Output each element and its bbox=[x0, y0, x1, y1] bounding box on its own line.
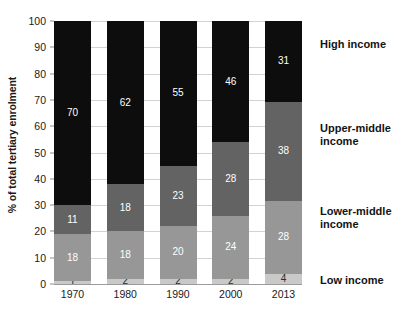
bar-segment[interactable]: 11 bbox=[54, 205, 91, 234]
y-axis-tick-label: 40 bbox=[34, 173, 46, 185]
bar-segment-value-label: 2 bbox=[175, 279, 181, 284]
bar-segment-value-label: 18 bbox=[67, 253, 78, 263]
bar-segment-value-label: 55 bbox=[172, 88, 183, 98]
bar-segment-value-label: 28 bbox=[278, 232, 289, 242]
bar-segment[interactable]: 62 bbox=[107, 21, 144, 184]
axis-baseline bbox=[54, 284, 302, 285]
legend-label: Lower-middle income bbox=[320, 205, 416, 232]
bar-segment[interactable]: 2 bbox=[160, 279, 197, 284]
bar-column[interactable]: 2181862 bbox=[107, 21, 144, 284]
bar-segment-value-label: 18 bbox=[120, 203, 131, 213]
bar-segment-value-label: 4 bbox=[281, 274, 287, 284]
bar-segment[interactable]: 18 bbox=[107, 231, 144, 278]
y-axis-tick-label: 90 bbox=[34, 41, 46, 53]
y-axis-title-text: % of total tertiary enrolment bbox=[6, 77, 18, 214]
bar-segment-value-label: 2 bbox=[122, 279, 128, 284]
bar-segment-value-label: 31 bbox=[278, 56, 289, 66]
bar-segment[interactable]: 55 bbox=[160, 21, 197, 166]
bar-segment[interactable]: 28 bbox=[265, 201, 302, 274]
bar-segment[interactable]: 38 bbox=[265, 102, 302, 201]
bar-segment-value-label: 23 bbox=[172, 191, 183, 201]
y-axis-title: % of total tertiary enrolment bbox=[2, 0, 22, 290]
bar-segment-value-label: 38 bbox=[278, 146, 289, 156]
x-axis-tick-labels: 19701980199020002013 bbox=[54, 288, 302, 308]
bar-segment-value-label: 2 bbox=[228, 279, 234, 284]
bar-segment-value-label: 24 bbox=[225, 242, 236, 252]
bar-segment[interactable]: 46 bbox=[212, 21, 249, 142]
bar-segment-value-label: 46 bbox=[225, 77, 236, 87]
bar-segment[interactable]: 31 bbox=[265, 21, 302, 102]
y-axis-tick-label: 100 bbox=[28, 15, 46, 27]
bar-segment[interactable]: 28 bbox=[212, 142, 249, 216]
x-axis-tick-label: 2000 bbox=[212, 288, 249, 308]
bar-segment[interactable]: 70 bbox=[54, 21, 91, 205]
bar-segment-value-label: 11 bbox=[67, 215, 77, 225]
bar-group: 11811702181862220235522428464283831 bbox=[54, 21, 302, 284]
legend-label: Upper-middle income bbox=[320, 122, 416, 149]
x-axis-tick-label: 1970 bbox=[54, 288, 91, 308]
y-axis-tick-label: 10 bbox=[34, 252, 46, 264]
x-axis-tick-label: 1980 bbox=[107, 288, 144, 308]
bar-segment[interactable]: 2 bbox=[212, 279, 249, 284]
y-axis-tick-label: 60 bbox=[34, 120, 46, 132]
bar-segment[interactable]: 4 bbox=[265, 274, 302, 284]
y-axis-tick-label: 50 bbox=[34, 147, 46, 159]
bar-segment[interactable]: 20 bbox=[160, 226, 197, 279]
bar-segment[interactable]: 23 bbox=[160, 166, 197, 226]
y-axis-tick-label: 30 bbox=[34, 199, 46, 211]
bar-column[interactable]: 1181170 bbox=[54, 21, 91, 284]
stacked-bar-chart: % of total tertiary enrolment 0102030405… bbox=[0, 0, 417, 318]
bar-segment[interactable]: 2 bbox=[107, 279, 144, 284]
plot-area: 11811702181862220235522428464283831 bbox=[54, 21, 302, 284]
y-axis-tick-label: 70 bbox=[34, 94, 46, 106]
bar-segment-value-label: 70 bbox=[67, 108, 78, 118]
bar-segment[interactable]: 18 bbox=[54, 234, 91, 281]
legend-label: Low income bbox=[320, 274, 416, 287]
legend: High incomeUpper-middle incomeLower-midd… bbox=[308, 0, 417, 318]
bar-segment[interactable]: 24 bbox=[212, 216, 249, 279]
bar-segment[interactable]: 1 bbox=[54, 281, 91, 284]
bar-column[interactable]: 2242846 bbox=[212, 21, 249, 284]
x-axis-tick-label: 1990 bbox=[160, 288, 197, 308]
y-axis-tick-label: 80 bbox=[34, 68, 46, 80]
y-axis-tick-label: 20 bbox=[34, 225, 46, 237]
bar-segment-value-label: 62 bbox=[120, 98, 131, 108]
bar-segment-value-label: 28 bbox=[225, 174, 236, 184]
bar-column[interactable]: 4283831 bbox=[265, 21, 302, 284]
y-axis-tick-labels: 0102030405060708090100 bbox=[22, 21, 50, 284]
y-axis-tick-label: 0 bbox=[40, 278, 46, 290]
bar-segment-value-label: 20 bbox=[172, 247, 183, 257]
legend-label: High income bbox=[320, 38, 416, 51]
x-axis-tick-label: 2013 bbox=[265, 288, 302, 308]
bar-segment[interactable]: 18 bbox=[107, 184, 144, 231]
bar-segment-value-label: 18 bbox=[120, 250, 131, 260]
bar-segment-value-label: 1 bbox=[70, 281, 76, 284]
bar-column[interactable]: 2202355 bbox=[160, 21, 197, 284]
